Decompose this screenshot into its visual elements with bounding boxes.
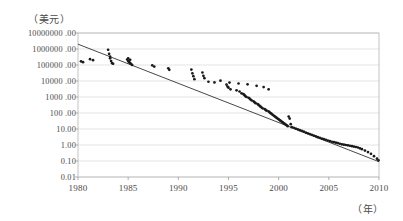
data-point <box>107 48 110 51</box>
data-point <box>129 58 132 61</box>
data-point <box>131 64 134 67</box>
data-point <box>92 59 95 62</box>
data-point <box>237 82 240 85</box>
data-point <box>82 61 85 64</box>
data-point <box>262 86 265 89</box>
plot-background <box>78 33 379 177</box>
chart-container: （美元） （年） 10000000 .001000000 .00100000 .… <box>0 0 403 221</box>
data-point <box>373 155 376 158</box>
data-point <box>153 65 156 68</box>
data-point <box>229 88 232 91</box>
data-point <box>361 148 364 151</box>
data-point <box>168 68 171 71</box>
data-point <box>191 72 194 75</box>
data-point <box>288 117 291 120</box>
plot-area <box>0 0 403 221</box>
data-point <box>89 58 92 61</box>
data-point <box>202 74 205 77</box>
data-point <box>370 153 373 156</box>
data-point <box>108 52 111 55</box>
data-point <box>201 71 204 74</box>
data-point <box>289 123 292 126</box>
data-point <box>203 77 206 80</box>
data-point <box>377 159 380 162</box>
data-point <box>267 88 270 91</box>
data-point <box>207 80 210 83</box>
data-point <box>367 151 370 154</box>
data-point <box>192 75 195 78</box>
data-point <box>190 68 193 71</box>
data-point <box>213 81 216 84</box>
data-point <box>193 78 196 81</box>
data-point <box>238 90 241 93</box>
data-point <box>219 79 222 82</box>
data-point <box>364 149 367 152</box>
data-point <box>235 89 238 92</box>
data-point <box>246 83 249 86</box>
data-point <box>109 57 112 60</box>
data-point <box>112 62 115 65</box>
data-point <box>286 125 289 128</box>
data-point <box>228 81 231 84</box>
data-point <box>255 84 258 87</box>
